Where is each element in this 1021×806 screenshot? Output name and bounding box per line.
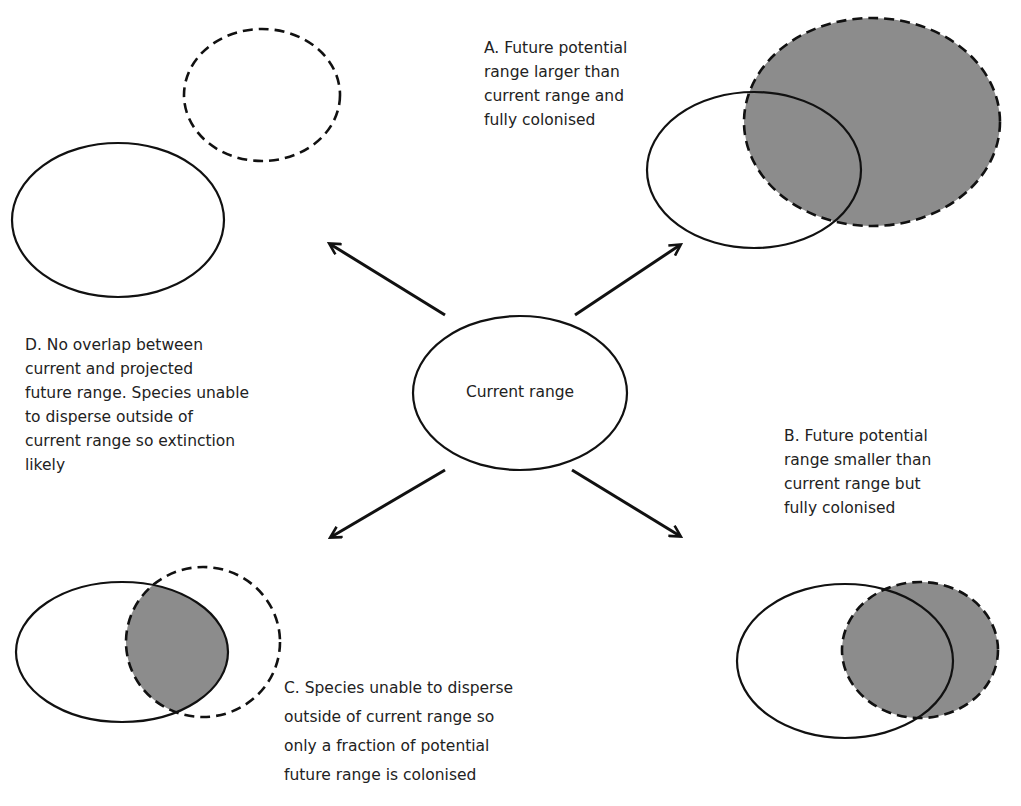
current-range-label: Current range bbox=[413, 383, 627, 401]
scenario-a-graphic bbox=[647, 18, 1000, 248]
arrow-to-d-icon bbox=[330, 244, 445, 315]
scenario-b-caption: B. Future potential range smaller than c… bbox=[784, 424, 931, 520]
future-range-ellipse bbox=[744, 18, 1000, 226]
scenario-d-caption: D. No overlap between current and projec… bbox=[25, 333, 249, 477]
scenario-a-caption: A. Future potential range larger than cu… bbox=[484, 36, 627, 132]
arrow-to-c-icon bbox=[331, 470, 445, 537]
scenario-c-caption: C. Species unable to disperse outside of… bbox=[284, 674, 513, 790]
arrow-to-a-icon bbox=[575, 245, 680, 315]
arrow-to-b-icon bbox=[572, 470, 680, 536]
scenario-b-graphic bbox=[737, 582, 998, 738]
future-range-ellipse bbox=[184, 29, 340, 161]
current-range-ellipse bbox=[12, 143, 224, 297]
scenario-c-graphic bbox=[16, 567, 280, 722]
scenario-d-graphic bbox=[12, 29, 340, 297]
future-range-ellipse bbox=[842, 582, 998, 718]
